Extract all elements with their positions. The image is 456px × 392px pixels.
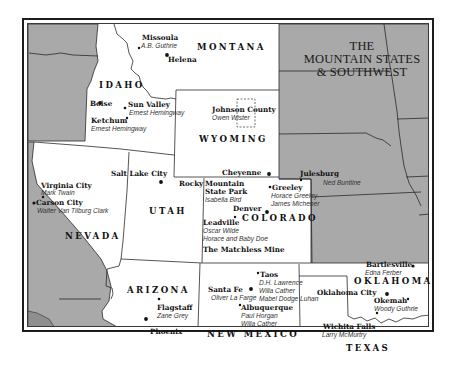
author-taos-2: Willa Cather — [259, 288, 295, 295]
place-albuquerque: Albuquerque — [241, 304, 293, 311]
author-leadville-2: Horace and Baby Doe — [203, 236, 268, 243]
place-helena: Helena — [168, 56, 197, 63]
place-sun-valley: Sun Valley — [128, 101, 170, 108]
state-label-utah: UTAH — [149, 207, 187, 216]
author-okemah-1: Woody Guthrie — [374, 306, 418, 313]
place-denver: Denver — [233, 205, 262, 212]
author-taos-1: D.H. Lawrence — [259, 280, 303, 287]
state-label-wyoming: WYOMING — [199, 135, 268, 144]
place-ketchum: Ketchum — [91, 117, 127, 124]
place-taos: Taos — [260, 271, 278, 278]
author-greeley-1: Horace Greeley — [271, 193, 317, 200]
author-flagstaff-1: Zane Grey — [157, 313, 188, 320]
author-sun-valley-1: Ernest Hemingway — [129, 110, 184, 117]
state-label-idaho: IDAHO — [99, 81, 145, 90]
place-greeley: Greeley — [272, 184, 303, 191]
place-boise: Boise — [90, 100, 112, 107]
author-taos-3: Mabel Dodge Luhan — [259, 296, 318, 303]
place-johnson-county: Johnson County — [212, 106, 276, 113]
state-label-colorado: COLORADO — [242, 214, 318, 223]
author-albuquerque-1: Paul Horgan — [241, 313, 278, 320]
author-albuquerque-2: Willa Cather — [241, 321, 277, 328]
place-carson-city: Carson City — [36, 199, 83, 206]
place-okemah: Okemah — [374, 297, 407, 304]
place-bartlesville: Bartlesville — [366, 261, 412, 268]
map-title: THE MOUNTAIN STATES & SOUTHWEST — [302, 40, 422, 79]
author-leadville-1: Oscar Wilde — [203, 228, 239, 235]
author-greeley-2: James Michener — [271, 201, 319, 208]
state-label-arizona: ARIZONA — [127, 286, 190, 295]
place-matchless-mine: The Matchless Mine — [203, 246, 285, 253]
place-flagstaff: Flagstaff — [157, 304, 192, 311]
place-wichita-falls: Wichita Falls — [323, 323, 375, 330]
state-label-nevada: NEVADA — [65, 232, 121, 241]
title-line-3: & SOUTHWEST — [302, 66, 422, 79]
author-rocky-mountain-1: Isabella Bird — [205, 197, 241, 204]
place-rocky-mountain-3: State Park — [205, 188, 247, 195]
state-label-new-mexico: NEW MEXICO — [207, 330, 299, 339]
place-oklahoma-city: Oklahoma City — [317, 289, 376, 296]
place-leadville: Leadville — [203, 219, 239, 226]
state-label-montana: MONTANA — [197, 43, 266, 52]
author-wichita-falls-1: Larry McMurtry — [322, 332, 366, 339]
author-bartlesville-1: Edna Ferber — [365, 270, 402, 277]
place-cheyenne: Cheyenne — [222, 169, 261, 176]
author-johnson-county-1: Owen Wister — [212, 115, 250, 122]
place-missoula: Missoula — [142, 34, 178, 41]
place-salt-lake-city: Salt Lake City — [111, 170, 167, 177]
place-phoenix: Phoenix — [150, 328, 182, 335]
place-julesburg: Julesburg — [300, 170, 339, 177]
author-carson-city-1: Walter Van Tilburg Clark — [37, 208, 108, 215]
author-ketchum-1: Ernest Hemingway — [91, 126, 146, 133]
state-label-texas: TEXAS — [346, 344, 390, 353]
author-santa-fe-1: Oliver La Farge — [211, 295, 256, 302]
author-missoula-1: A.B. Guthrie — [141, 43, 177, 50]
place-rocky-mountain-1: Rocky — [179, 180, 203, 187]
author-julesburg-1: Ned Buntline — [323, 180, 361, 187]
place-santa-fe: Santa Fe — [208, 286, 243, 293]
state-label-oklahoma: OKLAHOMA — [354, 277, 433, 286]
author-virginia-city-1: Mark Twain — [41, 190, 75, 197]
